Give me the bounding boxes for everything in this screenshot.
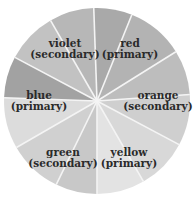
label-orange-type: (secondary) — [123, 100, 192, 112]
color-wheel: violet (secondary) red (primary) orange … — [0, 0, 193, 202]
label-violet-type: (secondary) — [30, 48, 99, 60]
label-green-type: (secondary) — [28, 157, 97, 169]
label-red-type: (primary) — [102, 48, 158, 60]
label-blue-type: (primary) — [11, 100, 67, 112]
label-yellow-type: (primary) — [101, 157, 157, 169]
